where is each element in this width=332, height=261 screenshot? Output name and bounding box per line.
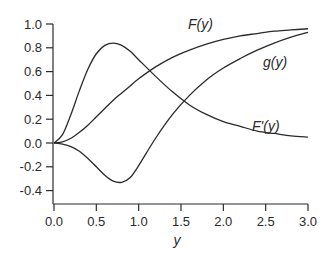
y-tick-label: 0.2 xyxy=(24,112,42,127)
x-tick-label: 1.5 xyxy=(172,214,190,229)
axes xyxy=(53,24,308,204)
curve-label-Fprime: F'(y) xyxy=(252,118,280,134)
curve-labels: F(y) g(y) F'(y) xyxy=(188,16,287,134)
x-axis-ticks: 0.00.51.01.52.02.53.0 xyxy=(45,204,317,229)
y-tick-label: 1.0 xyxy=(24,17,42,32)
y-tick-label: 0.0 xyxy=(24,136,42,151)
x-tick-label: 0.5 xyxy=(87,214,105,229)
y-tick-label: 0.6 xyxy=(24,64,42,79)
y-axis-ticks: 1.00.80.60.40.20.0-0.2-0.4 xyxy=(20,17,53,199)
line-chart: 1.00.80.60.40.20.0-0.2-0.4 0.00.51.01.52… xyxy=(0,0,332,261)
x-tick-label: 3.0 xyxy=(299,214,317,229)
y-tick-label: -0.4 xyxy=(20,183,42,198)
x-tick-label: 2.0 xyxy=(214,214,232,229)
x-tick-label: 0.0 xyxy=(45,214,63,229)
curves xyxy=(54,29,308,183)
y-tick-label: 0.8 xyxy=(24,40,42,55)
curve-label-F: F(y) xyxy=(188,16,213,32)
y-tick-label: -0.2 xyxy=(20,159,42,174)
curve-label-g: g(y) xyxy=(263,54,287,70)
x-tick-label: 1.0 xyxy=(130,214,148,229)
y-tick-label: 0.4 xyxy=(24,88,42,103)
x-axis-title: y xyxy=(173,232,182,248)
x-tick-label: 2.5 xyxy=(257,214,275,229)
